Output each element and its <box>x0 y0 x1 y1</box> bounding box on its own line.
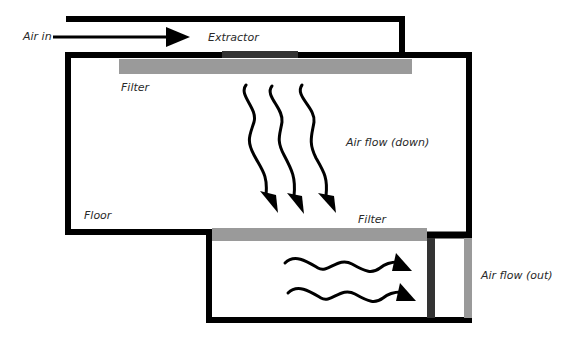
outlet-wall <box>427 238 435 318</box>
air-flow-down-arrows-icon <box>244 85 326 196</box>
label-floor: Floor <box>84 210 111 221</box>
label-air-in: Air in <box>23 31 52 42</box>
outlet-filter <box>464 238 472 318</box>
label-air-flow-down: Air flow (down) <box>346 137 429 148</box>
label-filter-bottom: Filter <box>358 214 386 225</box>
top-filter <box>119 59 412 74</box>
arrowheads-down <box>260 191 336 214</box>
booth-diagram <box>0 0 571 343</box>
extractor-slot <box>222 51 298 58</box>
air-in-arrow-icon <box>53 27 190 47</box>
label-extractor: Extractor <box>208 32 259 43</box>
label-air-flow-out: Air flow (out) <box>481 270 553 281</box>
bottom-filter <box>212 228 427 241</box>
label-filter-top: Filter <box>121 82 149 93</box>
air-flow-out-arrows-icon <box>285 259 401 302</box>
